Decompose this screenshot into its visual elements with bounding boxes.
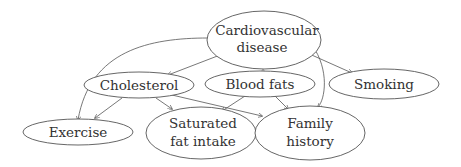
node-label: Exercise [49, 124, 108, 140]
causal-diagram: Cardiovascular disease Cholesterol Blood… [0, 0, 461, 167]
node-cardiovascular-disease: Cardiovascular disease [207, 11, 321, 69]
node-label: Cholesterol [100, 77, 179, 93]
node-blood-fats: Blood fats [205, 71, 315, 97]
node-saturated-fat-intake: Saturated fat intake [146, 107, 256, 159]
node-cholesterol: Cholesterol [84, 72, 194, 98]
node-label: Saturated [169, 115, 237, 131]
edge-cholesterol-exercise [95, 98, 122, 118]
node-label: disease [237, 39, 288, 55]
edge-bloodfats-satfat [222, 96, 245, 111]
node-smoking: Smoking [329, 69, 439, 99]
node-label: Smoking [354, 76, 414, 92]
node-label: Family [287, 115, 333, 131]
edge-cvd-cholesterol [168, 55, 220, 75]
node-family-history: Family history [255, 106, 365, 160]
node-exercise: Exercise [23, 119, 133, 145]
node-label: Cardiovascular [215, 22, 319, 38]
edge-cholesterol-satfat [156, 98, 172, 109]
node-label: fat intake [170, 133, 235, 149]
node-label: Blood fats [226, 76, 295, 92]
edge-bloodfats-family [275, 96, 288, 109]
node-label: history [286, 133, 334, 149]
